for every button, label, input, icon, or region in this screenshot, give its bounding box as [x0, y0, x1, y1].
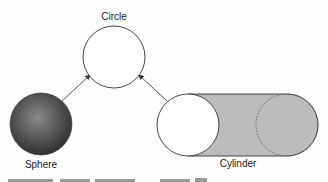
edge-cylinder-to-circle	[139, 75, 167, 101]
cylinder-front-face	[157, 94, 219, 156]
circle-label: Circle	[101, 11, 127, 22]
diagram-svg	[0, 0, 328, 182]
cut-off-caption	[8, 178, 207, 182]
diagram-canvas: Circle Sphere Cylinder	[0, 0, 328, 182]
cylinder-label: Cylinder	[220, 158, 257, 169]
sphere-node	[10, 93, 72, 155]
edge-sphere-to-circle	[62, 75, 90, 101]
circle-node	[83, 26, 145, 88]
sphere-label: Sphere	[25, 159, 57, 170]
